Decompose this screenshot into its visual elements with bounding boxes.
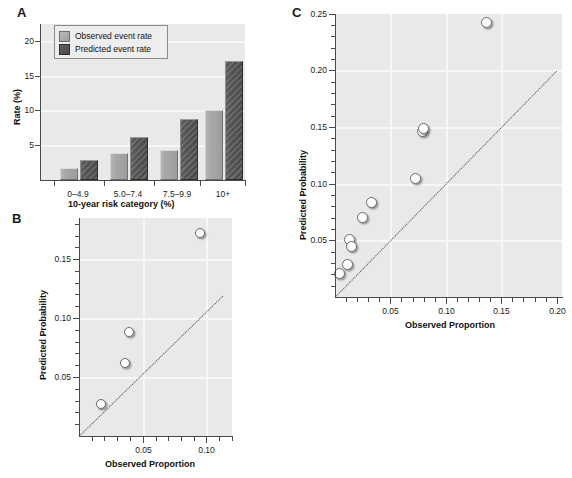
panel-b-xtick-minor-0.02: [104, 437, 105, 441]
scatter-point-c-8: [418, 123, 429, 134]
panel-c-ytick-minor-0.11: [331, 172, 335, 173]
panel-c-ytick-minor-0.22: [331, 48, 335, 49]
panel-c-gridline-y-0.20: [335, 70, 562, 72]
bar-observed-10plus: [205, 110, 223, 180]
bar-observed-7.5-9.9: [160, 150, 178, 180]
panel-c-xtick-0.10: [446, 298, 447, 304]
panel-b-xtick-minor-0.04: [130, 437, 131, 441]
panel-a-gridline-15: [40, 76, 245, 78]
panel-c-xtick-minor-0.19: [546, 298, 547, 302]
panel-a-legend: Observed event rate Predicted event rate: [54, 25, 168, 59]
panel-b-xtick-minor-0.01: [92, 437, 93, 441]
panel-c-ytick-0.15: [329, 127, 335, 128]
panel-c-yticklabel-0.20: 0.20: [302, 65, 327, 75]
panel-b-gridline-x-0.05: [143, 218, 145, 436]
scatter-point-c-9: [481, 17, 492, 28]
panel-a-xtick-sep-3: [154, 181, 155, 186]
panel-c-ytick-minor-0.19: [331, 82, 335, 83]
panel-b-xtick-minor-0.11: [219, 437, 220, 441]
panel-a-xtick-sep-5: [245, 181, 246, 186]
panel-a-xtick-sep-1: [54, 181, 55, 186]
panel-b-ytick-minor-0.06: [75, 365, 79, 366]
panel-c-xticklabel-0.10: 0.10: [434, 306, 459, 316]
scatter-point-c-6: [410, 173, 421, 184]
panel-a-yticklabel-10: 10: [20, 105, 34, 115]
panel-c-xticklabel-0.05: 0.05: [378, 306, 403, 316]
panel-c-xtick-minor-0.14: [490, 298, 491, 302]
panel-c-xtick-minor-0.01: [346, 298, 347, 302]
panel-c-xtick-minor-0.07: [413, 298, 414, 302]
panel-c-ytick-0.20: [329, 70, 335, 71]
panel-b-gridline-x-0.10: [206, 218, 208, 436]
panel-b-xtick-minor-0.03: [117, 437, 118, 441]
panel-c-xtick-minor-0.08: [424, 298, 425, 302]
panel-c-ytick-0.25: [329, 14, 335, 15]
panel-b-xtick-minor-0.08: [181, 437, 182, 441]
panel-c-xticklabel-0.15: 0.15: [489, 306, 514, 316]
legend-row-observed: Observed event rate: [59, 30, 162, 42]
panel-c-ytick-minor-0.12: [331, 161, 335, 162]
panel-c-gridline-x-0.05: [390, 14, 392, 297]
panel-b-yticklabel-0.05: 0.05: [46, 372, 71, 382]
panel-b-y-axis-title: Predicted Probability: [38, 290, 48, 380]
panel-b-letter: B: [12, 211, 21, 226]
panel-b-xticklabel-0.10: 0.10: [194, 445, 219, 455]
panel-c: C 0.05 0.10 0.15 0.20 0.: [290, 0, 572, 340]
panel-b-xtick-0.05: [143, 437, 144, 443]
panel-a-xtick-sep-2: [104, 181, 105, 186]
panel-c-ytick-minor-0.03: [331, 263, 335, 264]
panel-c-yticklabel-0.25: 0.25: [302, 9, 327, 19]
panel-c-xticklabel-0.20: 0.20: [545, 306, 570, 316]
panel-a-y-axis: [40, 24, 41, 181]
panel-b-xtick-minor-0.06: [156, 437, 157, 441]
panel-b-ytick-minor-0.17: [75, 236, 79, 237]
legend-row-predicted: Predicted event rate: [59, 43, 162, 55]
panel-c-gridline-y-0.10: [335, 184, 562, 186]
panel-c-ytick-minor-0.06: [331, 229, 335, 230]
panel-c-ytick-minor-0.01: [331, 286, 335, 287]
panel-b-ytick-minor-0.12: [75, 294, 79, 295]
panel-b-xtick-minor-0.12: [232, 437, 233, 441]
panel-b-xtick-0.10: [206, 437, 207, 443]
panel-a-ytick-20: [35, 41, 40, 42]
panel-c-xtick-minor-0.03: [368, 298, 369, 302]
panel-c-xtick-minor-0.17: [523, 298, 524, 302]
panel-b-ytick-0.05: [73, 377, 79, 378]
panel-c-ytick-0.10: [329, 184, 335, 185]
panel-b-ytick-minor-0.16: [75, 247, 79, 248]
panel-b-ytick-minor-0.02: [75, 412, 79, 413]
panel-c-gridline-x-0.15: [501, 14, 503, 297]
panel-c-xtick-minor-0.18: [535, 298, 536, 302]
panel-c-ytick-minor-0.04: [331, 252, 335, 253]
panel-b-ytick-minor-0.14: [75, 271, 79, 272]
legend-swatch-predicted-icon: [59, 44, 70, 55]
panel-c-ytick-minor-0.16: [331, 116, 335, 117]
panel-c-yticklabel-0.15: 0.15: [302, 122, 327, 132]
panel-b-ytick-minor-0.13: [75, 283, 79, 284]
bar-predicted-7.5-9.9: [180, 119, 198, 180]
panel-a-ytick-5: [35, 145, 40, 146]
panel-b-ytick-0.15: [73, 259, 79, 260]
panel-c-ytick-minor-0.17: [331, 104, 335, 105]
panel-c-xtick-minor-0.12: [468, 298, 469, 302]
panel-a-xticklabel-1: 5.0–7.4: [108, 189, 148, 199]
panel-a-y-axis-title: Rate (%): [12, 89, 22, 125]
panel-c-xtick-0.15: [501, 298, 502, 304]
panel-a-xticklabel-3: 10+: [203, 189, 243, 199]
panel-c-xtick-minor-0.11: [457, 298, 458, 302]
panel-b-xtick-minor-0.09: [194, 437, 195, 441]
panel-c-xtick-0.20: [557, 298, 558, 304]
panel-c-ytick-minor-0.07: [331, 218, 335, 219]
panel-b-ytick-minor-0.04: [75, 389, 79, 390]
panel-b-yticklabel-0.15: 0.15: [46, 254, 71, 264]
panel-b-ytick-minor-0.03: [75, 401, 79, 402]
panel-c-ytick-minor-0.09: [331, 195, 335, 196]
panel-b-y-axis: [79, 218, 80, 437]
panel-c-ytick-minor-0.23: [331, 36, 335, 37]
panel-c-plot-area: [335, 14, 562, 297]
panel-a-x-axis: [40, 180, 246, 181]
panel-a-yticklabel-15: 15: [20, 71, 34, 81]
panel-a-yticklabel-5: 5: [25, 140, 34, 150]
panel-c-ytick-minor-0.02: [331, 274, 335, 275]
panel-c-letter: C: [292, 5, 301, 20]
